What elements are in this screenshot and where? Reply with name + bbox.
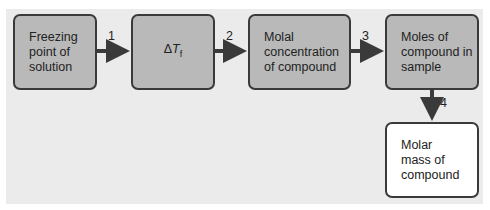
arrow-label-3: 3 [362,29,369,43]
delta-tf-label: ΔTf [164,42,183,62]
box-label: Freezing point of solution [29,30,78,75]
subscript-f: f [180,49,183,59]
box-moles-compound: Moles of compound in sample [385,14,479,90]
box-freezing-point: Freezing point of solution [13,14,97,90]
box-label: Molar mass of compound [401,138,459,183]
arrow-label-1: 1 [108,29,115,43]
box-molal-concentration: Molal concentration of compound [248,14,351,90]
box-molar-mass: Molar mass of compound [385,122,479,198]
arrow-label-2: 2 [226,29,233,43]
delta-symbol: Δ [164,42,172,56]
variable-t: T [172,42,180,56]
box-label: Molal concentration of compound [264,30,339,75]
arrow-label-4: 4 [440,96,447,110]
box-delta-tf: ΔTf [131,14,215,90]
box-label: Moles of compound in sample [401,30,473,75]
